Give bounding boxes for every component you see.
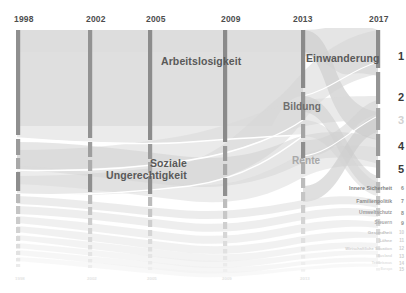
bottom-year-label-2002: 2002 [87, 276, 97, 281]
rank-number-2: 2 [398, 91, 404, 103]
rank-topic-label-15: Europa [381, 267, 392, 271]
rank-number-3: 3 [398, 114, 404, 126]
flow-label-bildung: Bildung [283, 101, 321, 112]
rank-topic-label-8: Umweltschutz [359, 210, 392, 215]
bump-chart-root: 1998 2002 2005 2009 2013 2017 1998 2002 … [0, 0, 406, 293]
rank-number-13: 13 [399, 254, 404, 259]
bottom-year-label-2005: 2005 [147, 276, 157, 281]
rank-number-10: 10 [399, 230, 404, 235]
rank-topic-label-7: Familienpolitik [356, 198, 392, 204]
flow-label-soziale-line1: Soziale [106, 158, 187, 170]
year-label-1998: 1998 [14, 14, 34, 24]
rank-topic-label-9: Steuern [375, 220, 392, 225]
node-bar-1998 [16, 30, 20, 267]
year-label-2002: 2002 [86, 14, 106, 24]
node-bar-2005 [148, 30, 152, 270]
rank-number-8: 8 [401, 210, 404, 216]
year-label-2017: 2017 [369, 14, 389, 24]
rank-topic-label-11: Löhne [379, 238, 392, 243]
rank-number-5: 5 [398, 163, 404, 175]
flow-label-soziale-ungerechtigkeit: Soziale Ungerechtigkeit [106, 158, 187, 181]
flow-label-einwanderung: Einwanderung [306, 52, 380, 64]
rank-number-7: 7 [401, 198, 404, 204]
node-bar-2013 [301, 30, 305, 272]
year-label-2009: 2009 [221, 14, 241, 24]
bottom-year-label-2013: 2013 [300, 276, 310, 281]
rank-number-9: 9 [401, 220, 404, 226]
rank-topic-label-6: Innere Sicherheit [349, 185, 392, 191]
rank-number-11: 11 [399, 238, 404, 243]
rank-number-12: 12 [399, 246, 404, 251]
bottom-year-label-1998: 1998 [15, 276, 25, 281]
flow-label-rente: Rente [292, 155, 320, 166]
rank-number-1: 1 [398, 50, 404, 62]
rank-topic-label-14: Terrorismus [372, 261, 392, 265]
rank-number-14: 14 [399, 261, 404, 266]
year-label-2005: 2005 [146, 14, 166, 24]
flow-label-soziale-line2: Ungerechtigkeit [106, 170, 187, 182]
rank-topic-label-10: Gesundheit [368, 230, 392, 235]
node-bar-2002 [88, 30, 92, 268]
rank-topic-label-12: Wirtschaftliche Situation [345, 246, 392, 251]
rank-number-6: 6 [401, 185, 404, 191]
rank-topic-label-13: Ausland [377, 254, 392, 258]
year-label-2013: 2013 [293, 14, 313, 24]
bottom-year-label-2009: 2009 [222, 276, 232, 281]
flow-label-arbeitslosigkeit: Arbeitslosigkeit [161, 55, 241, 67]
rank-number-15: 15 [399, 267, 404, 272]
rank-number-4: 4 [398, 140, 404, 152]
